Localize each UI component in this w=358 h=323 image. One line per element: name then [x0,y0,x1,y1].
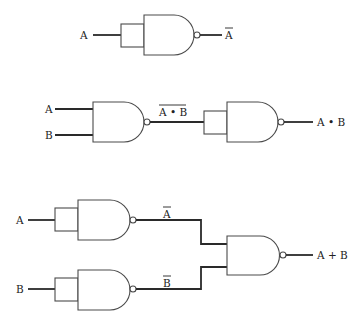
output-label: A + B [316,249,348,261]
inversion-bubble-icon [144,119,150,125]
circuit-or: A A B B A + B [15,200,348,310]
input-label-a: A [15,214,24,226]
intermediate-label: A • B [158,106,187,118]
circuit-not: A A [79,15,233,55]
nand-gate-body-final [227,236,280,275]
wire-not-a [136,220,227,244]
input-label-a: A [44,103,53,115]
input-label-b: B [16,283,24,295]
nand-gate-body-1 [93,102,144,142]
nand-gate-body [144,15,194,55]
wire-not-b [136,267,227,289]
intermediate-label-b: B [163,277,171,289]
nand-gate-body-2 [227,102,278,142]
output-label: A [224,29,233,41]
output-label: A • B [316,116,345,128]
inversion-bubble-icon [278,119,284,125]
tied-inputs-box-b [55,278,78,301]
tied-inputs-box [204,111,227,134]
inversion-bubble-icon [280,252,286,258]
circuit-and: A B A • B A • B [44,102,345,142]
nand-logic-diagram: A A A B A • B A • B A A B [0,0,358,323]
inversion-bubble-icon [130,286,136,292]
inversion-bubble-icon [194,32,200,38]
input-label-a: A [79,29,88,41]
intermediate-label-a: A [162,208,171,220]
nand-gate-body-a [78,200,130,240]
input-label-b: B [45,129,53,141]
inversion-bubble-icon [130,217,136,223]
tied-inputs-box-a [55,208,78,231]
tied-inputs-box [121,24,144,47]
nand-gate-body-b [78,270,130,310]
